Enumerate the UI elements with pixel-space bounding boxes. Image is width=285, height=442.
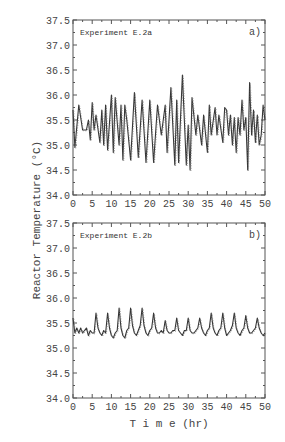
x-tick-label: 40 (221, 402, 233, 413)
y-tick-label: 37.0 (46, 244, 70, 255)
y-tick-label: 35.0 (46, 141, 70, 152)
x-tick-label: 50 (259, 199, 271, 210)
x-axis-label: T i m e (hr) (129, 418, 208, 430)
x-tick-label: 30 (182, 402, 194, 413)
y-tick-label: 34.0 (46, 191, 70, 202)
experiment-label: Experiment E.2a (80, 28, 152, 37)
chart-panel-a: 34.034.535.035.536.036.537.037.505101520… (46, 16, 271, 211)
x-tick-label: 45 (240, 199, 252, 210)
panel-label: b) (249, 230, 261, 241)
y-tick-label: 34.5 (46, 166, 70, 177)
figure: Reactor Temperature (°C) T i m e (hr) 34… (0, 0, 285, 442)
x-tick-label: 5 (89, 402, 95, 413)
x-tick-label: 15 (125, 199, 137, 210)
y-tick-label: 35.5 (46, 319, 70, 330)
chart-panel-b: 34.034.535.035.536.036.537.037.505101520… (46, 219, 271, 414)
x-tick-label: 5 (89, 199, 95, 210)
y-tick-label: 35.0 (46, 344, 70, 355)
y-tick-label: 36.5 (46, 66, 70, 77)
x-tick-label: 35 (201, 199, 213, 210)
y-tick-label: 37.5 (46, 16, 70, 27)
x-tick-label: 40 (221, 199, 233, 210)
x-tick-label: 0 (70, 199, 76, 210)
x-tick-label: 15 (125, 402, 137, 413)
experiment-label: Experiment E.2b (80, 231, 152, 240)
plot-frame (73, 223, 265, 398)
x-tick-label: 20 (144, 199, 156, 210)
x-tick-label: 0 (70, 402, 76, 413)
y-tick-label: 36.0 (46, 91, 70, 102)
x-tick-label: 50 (259, 402, 271, 413)
x-tick-label: 25 (163, 402, 175, 413)
plot-frame (73, 20, 265, 195)
data-series-line (73, 308, 265, 338)
x-tick-label: 10 (105, 199, 117, 210)
y-tick-label: 36.5 (46, 269, 70, 280)
x-tick-label: 25 (163, 199, 175, 210)
y-tick-label: 34.0 (46, 394, 70, 405)
y-axis-label: Reactor Temperature (°C) (31, 141, 43, 299)
y-tick-label: 37.5 (46, 219, 70, 230)
x-tick-label: 45 (240, 402, 252, 413)
x-tick-label: 30 (182, 199, 194, 210)
y-tick-label: 37.0 (46, 41, 70, 52)
x-tick-label: 10 (105, 402, 117, 413)
x-tick-label: 20 (144, 402, 156, 413)
x-tick-label: 35 (201, 402, 213, 413)
y-tick-label: 36.0 (46, 294, 70, 305)
y-tick-label: 34.5 (46, 369, 70, 380)
panel-label: a) (249, 27, 261, 38)
y-tick-label: 35.5 (46, 116, 70, 127)
